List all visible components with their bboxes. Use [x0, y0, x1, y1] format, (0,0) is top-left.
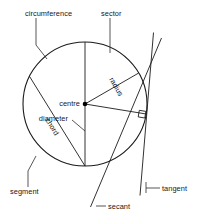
circle-parts-diagram: circumference sector centre diameter rad…	[0, 0, 199, 224]
label-circumference: circumference	[25, 9, 72, 18]
label-sector: sector	[101, 9, 122, 18]
label-segment: segment	[10, 187, 39, 196]
circle-diagram-canvas: circumference sector centre diameter rad…	[0, 0, 199, 224]
circumference-leader-line	[36, 18, 47, 59]
segment-leader-line	[28, 156, 36, 187]
centre-point-dot	[83, 102, 88, 107]
label-tangent: tangent	[162, 184, 187, 193]
tangent-leader-line	[146, 182, 160, 193]
label-secant: secant	[108, 202, 130, 211]
label-centre: centre	[59, 99, 80, 108]
